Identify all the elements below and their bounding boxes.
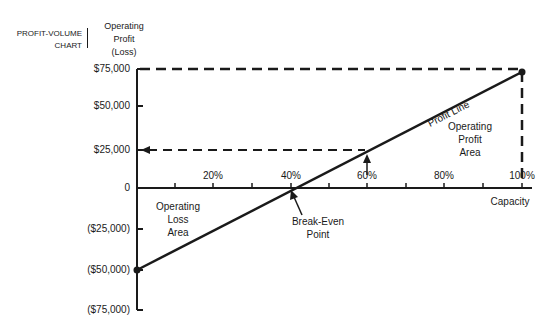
profit-area-line3: Area	[440, 146, 500, 159]
x-tick-80: 80%	[434, 170, 454, 181]
break-even-label: Break-Even Point	[278, 215, 358, 241]
x-tick-100: 100%	[509, 170, 535, 181]
arrow-25000-icon	[141, 146, 150, 154]
profit-area-line1: Operating	[440, 120, 500, 133]
x-tick-20: 20%	[203, 170, 223, 181]
point-end	[519, 69, 526, 76]
break-even-line2: Point	[278, 228, 358, 241]
chart-plot: Profit Line	[0, 0, 541, 323]
x-tick-40: 40%	[281, 170, 301, 181]
loss-area-line3: Area	[148, 226, 208, 239]
profit-area-line2: Profit	[440, 133, 500, 146]
profit-area-label: Operating Profit Area	[440, 120, 500, 159]
loss-area-line2: Loss	[148, 213, 208, 226]
arrow-60pct-icon	[363, 154, 371, 163]
break-even-line1: Break-Even	[278, 215, 358, 228]
loss-area-label: Operating Loss Area	[148, 200, 208, 239]
point-start	[134, 267, 141, 274]
x-axis-label: Capacity	[491, 196, 530, 207]
loss-area-line1: Operating	[148, 200, 208, 213]
arrow-breakeven-icon	[290, 190, 298, 200]
x-tick-60: 60%	[357, 170, 377, 181]
